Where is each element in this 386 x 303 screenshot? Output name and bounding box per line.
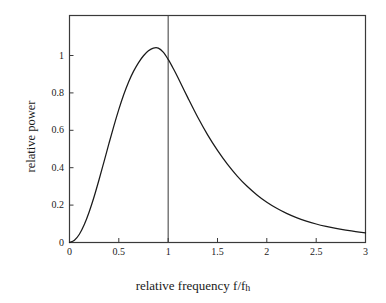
y-tick-label-4: 0.8 — [36, 88, 64, 98]
x-axis-title: relative frequency f/fh — [0, 278, 386, 294]
x-tick-label-1: 0.5 — [113, 247, 126, 257]
y-tick-label-1: 0.2 — [36, 200, 64, 210]
x-tick-label-3: 1.5 — [211, 247, 224, 257]
x-axis-ticks — [70, 238, 366, 243]
plot-canvas — [0, 0, 386, 303]
x-tick-label-4: 2 — [264, 247, 269, 257]
x-tick-label-5: 2.5 — [310, 247, 323, 257]
y-tick-label-2: 0.4 — [36, 163, 64, 173]
x-axis-title-main: relative frequency f/f — [136, 278, 246, 293]
power-spectrum-curve — [70, 48, 366, 243]
y-tick-label-3: 0.6 — [36, 125, 64, 135]
x-tick-label-6: 3 — [363, 247, 368, 257]
y-tick-label-5: 1 — [36, 51, 64, 61]
plot-frame — [70, 16, 366, 243]
x-tick-label-0: 0 — [67, 247, 72, 257]
x-tick-label-2: 1 — [166, 247, 171, 257]
y-tick-label-0: 0 — [36, 238, 64, 248]
y-axis-title: relative power — [24, 62, 39, 212]
x-axis-title-subscript: h — [245, 282, 250, 293]
chart-figure: 0 0.5 1 1.5 2 2.5 3 0 0.2 0.4 0.6 0.8 1 … — [0, 0, 386, 303]
